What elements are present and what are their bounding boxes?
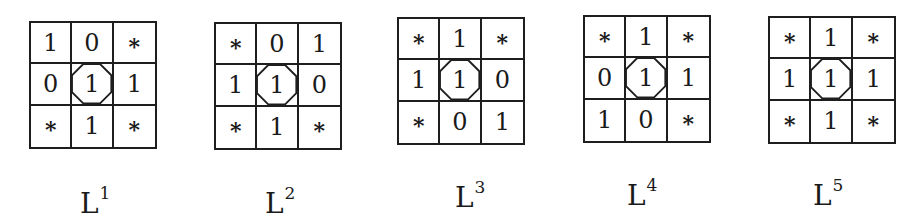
cell-r1-c2: 1 [668, 58, 709, 99]
cell-value: 1 [681, 66, 696, 90]
cell-value: 1 [452, 68, 467, 92]
cell-value: 0 [84, 31, 99, 55]
pattern-L5: * 1 * 1 1 1 * 1 * [768, 16, 896, 144]
cell-value: 0 [269, 32, 284, 56]
cell-r1-c0: 0 [585, 58, 626, 99]
cell-r2-c2: * [853, 101, 894, 142]
cell-value: 1 [638, 25, 653, 49]
cell-value: 1 [495, 110, 510, 134]
cell-value: 0 [597, 66, 612, 90]
cell-r2-c1: 0 [440, 102, 481, 143]
cell-value: * [230, 36, 242, 58]
pattern-L2: * 0 1 1 1 0 * 1 * [214, 22, 342, 150]
grid-L5: * 1 * 1 1 1 * 1 * [768, 16, 896, 144]
cell-value: 1 [228, 73, 243, 97]
cell-r0-c1: 1 [811, 18, 852, 59]
cell-center: 1 [257, 65, 298, 106]
cell-value: * [230, 119, 242, 141]
cell-value: * [784, 30, 796, 52]
cell-center: 1 [440, 60, 481, 101]
cell-r1-c2: 0 [482, 60, 523, 101]
cell-value: * [497, 31, 509, 53]
cell-value: 0 [452, 110, 467, 134]
cell-value: 0 [638, 108, 653, 132]
label-text: L [265, 187, 284, 220]
cell-r0-c0: * [399, 19, 440, 60]
cell-r2-c1: 1 [257, 107, 298, 148]
cell-center: 1 [72, 64, 113, 105]
cell-value: 1 [823, 26, 838, 50]
cell-r0-c0: * [585, 17, 626, 58]
cell-r1-c0: 1 [770, 59, 811, 100]
cell-value: 1 [823, 67, 838, 91]
cell-r2-c0: * [31, 106, 72, 147]
cell-r2-c0: 1 [585, 100, 626, 141]
cell-value: * [129, 35, 141, 57]
cell-r2-c2: * [114, 106, 155, 147]
label-L2: L2 [265, 189, 295, 218]
cell-r2-c1: 1 [811, 101, 852, 142]
label-L3: L3 [455, 183, 485, 212]
label-text: L [813, 179, 832, 212]
cell-value: 1 [866, 67, 881, 91]
cell-r1-c0: 1 [216, 65, 257, 106]
cell-value: 1 [84, 72, 99, 96]
cell-value: 1 [638, 66, 653, 90]
label-text: L [627, 179, 646, 212]
cell-center: 1 [626, 58, 667, 99]
cell-value: * [45, 118, 57, 140]
cell-r2-c2: * [668, 100, 709, 141]
pattern-L4: * 1 * 0 1 1 1 0 * [583, 15, 711, 143]
pattern-L3: * 1 * 1 1 0 * 0 1 [397, 17, 525, 145]
cell-r2-c0: * [770, 101, 811, 142]
cell-value: 1 [411, 68, 426, 92]
cell-r0-c1: 0 [257, 24, 298, 65]
cell-r0-c1: 0 [72, 23, 113, 64]
cell-r2-c2: * [299, 107, 340, 148]
cell-value: * [683, 29, 695, 51]
cell-value: 1 [782, 67, 797, 91]
cell-value: 1 [269, 115, 284, 139]
cell-value: 0 [312, 73, 327, 97]
label-superscript: 5 [833, 175, 844, 195]
cell-r0-c0: * [216, 24, 257, 65]
cell-value: 0 [495, 68, 510, 92]
cell-r0-c1: 1 [626, 17, 667, 58]
label-L4: L4 [627, 181, 657, 210]
cell-r1-c2: 1 [114, 64, 155, 105]
cell-r2-c1: 1 [72, 106, 113, 147]
cell-r0-c2: * [668, 17, 709, 58]
cell-r0-c2: 1 [299, 24, 340, 65]
cell-r2-c2: 1 [482, 102, 523, 143]
label-superscript: 2 [285, 183, 296, 203]
label-L5: L5 [813, 181, 843, 210]
pattern-L1: 1 0 * 0 1 1 * 1 * [29, 21, 157, 149]
label-superscript: 1 [100, 183, 111, 203]
cell-value: * [868, 30, 880, 52]
cell-r0-c2: * [482, 19, 523, 60]
cell-r0-c2: * [853, 18, 894, 59]
cell-r2-c1: 0 [626, 100, 667, 141]
label-text: L [80, 187, 99, 220]
cell-value: * [413, 31, 425, 53]
cell-value: 1 [43, 31, 58, 55]
cell-value: * [413, 114, 425, 136]
cell-value: * [784, 113, 796, 135]
cell-r0-c0: * [770, 18, 811, 59]
cell-r1-c2: 1 [853, 59, 894, 100]
label-text: L [455, 181, 474, 214]
cell-value: * [599, 29, 611, 51]
cell-value: 1 [823, 109, 838, 133]
cell-r2-c0: * [399, 102, 440, 143]
cell-r0-c2: * [114, 23, 155, 64]
grid-L4: * 1 * 0 1 1 1 0 * [583, 15, 711, 143]
cell-value: * [314, 119, 326, 141]
label-L1: L1 [80, 189, 110, 218]
cell-r1-c0: 0 [31, 64, 72, 105]
cell-value: * [129, 118, 141, 140]
cell-r1-c2: 0 [299, 65, 340, 106]
grid-L2: * 0 1 1 1 0 * 1 * [214, 22, 342, 150]
cell-value: 0 [43, 72, 58, 96]
cell-value: 1 [84, 114, 99, 138]
grid-L1: 1 0 * 0 1 1 * 1 * [29, 21, 157, 149]
